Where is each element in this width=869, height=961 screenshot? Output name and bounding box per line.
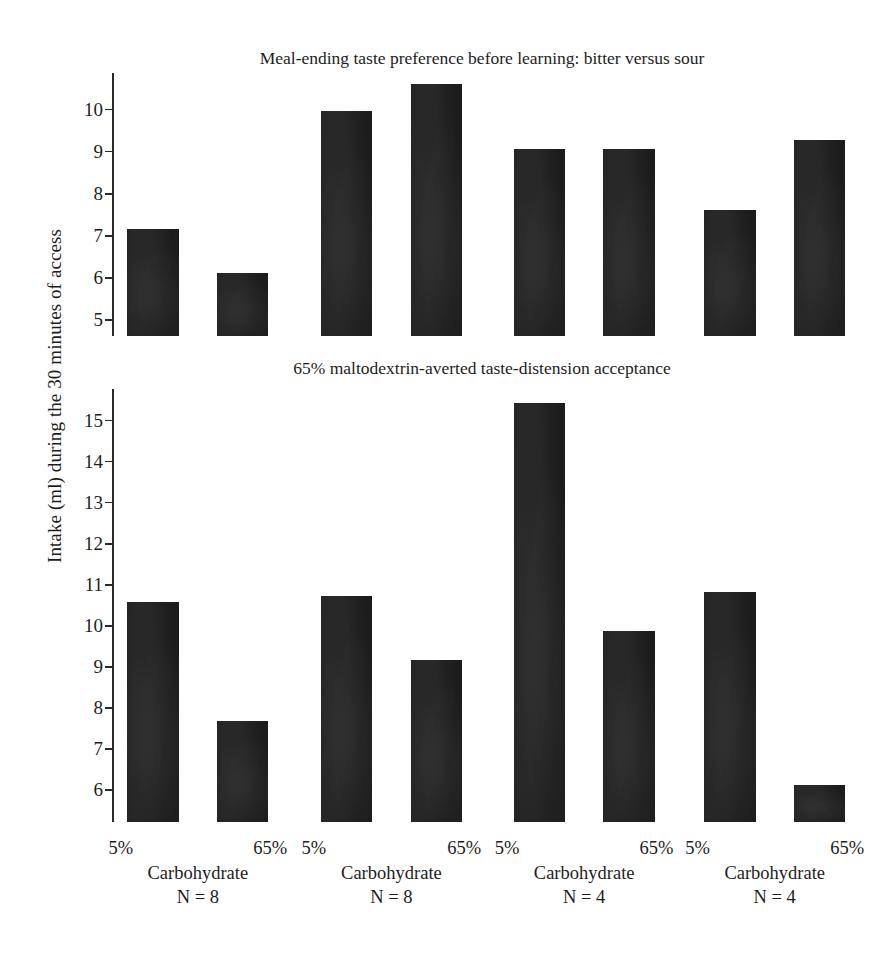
x-axis-category-label: Carbohydrate xyxy=(488,861,681,886)
x-axis-level-row: 5%65% xyxy=(295,836,489,861)
x-axis-group: 5%65%CarbohydrateN = 4 xyxy=(488,836,681,910)
y-axis-label: Intake (ml) during the 30 minutes of acc… xyxy=(44,136,66,656)
y-axis-line xyxy=(112,389,114,822)
y-axis-tick-label: 11 xyxy=(85,574,103,593)
y-axis-tick-label: 8 xyxy=(94,183,104,202)
y-axis-tick xyxy=(105,277,112,279)
y-axis-tick-label: 10 xyxy=(84,615,103,634)
y-axis-tick-label: 6 xyxy=(94,268,104,287)
y-axis-tick xyxy=(105,193,112,195)
bar xyxy=(603,149,655,336)
y-axis-tick-label: 13 xyxy=(84,492,103,511)
x-axis-sample-size: N = 8 xyxy=(101,885,294,910)
x-axis-category-label: Carbohydrate xyxy=(678,861,869,886)
y-axis-tick xyxy=(105,420,112,422)
x-axis-group-labels: 5%65%CarbohydrateN = 85%65%CarbohydrateN… xyxy=(112,836,852,936)
x-axis-category-label: Carbohydrate xyxy=(101,861,294,886)
x-axis-level-high: 65% xyxy=(253,836,287,861)
x-axis-level-high: 65% xyxy=(830,836,864,861)
x-axis-group: 5%65%CarbohydrateN = 8 xyxy=(101,836,294,910)
bar xyxy=(127,229,179,336)
bar xyxy=(217,721,269,822)
y-axis-tick xyxy=(105,319,112,321)
y-axis-tick-label: 5 xyxy=(94,310,104,329)
x-axis-level-row: 5%65% xyxy=(678,836,869,861)
x-axis-group: 5%65%CarbohydrateN = 8 xyxy=(295,836,489,910)
y-axis-tick-label: 8 xyxy=(94,698,104,717)
x-axis-sample-size: N = 4 xyxy=(488,885,681,910)
y-axis-tick xyxy=(105,666,112,668)
chart-title-bottom: 65% maltodextrin-averted taste-distensio… xyxy=(112,358,852,379)
x-axis-level-row: 5%65% xyxy=(101,836,294,861)
y-axis-tick xyxy=(105,151,112,153)
bar xyxy=(321,596,373,822)
bar xyxy=(704,592,756,822)
bar xyxy=(411,660,463,822)
y-axis-tick xyxy=(105,625,112,627)
plot-area-top: 5678910 xyxy=(112,73,852,336)
chart-title-top: Meal-ending taste preference before lear… xyxy=(112,48,852,69)
y-axis-tick-label: 10 xyxy=(84,99,103,118)
chart-panel-top: Meal-ending taste preference before lear… xyxy=(112,48,852,338)
y-axis-tick-label: 14 xyxy=(84,451,103,470)
bar xyxy=(127,602,179,822)
y-axis-tick xyxy=(105,543,112,545)
bar xyxy=(321,111,373,336)
y-axis-line xyxy=(112,73,114,336)
y-axis-tick-label: 7 xyxy=(94,739,104,758)
y-axis-tick-label: 15 xyxy=(84,410,103,429)
y-axis-tick-label: 12 xyxy=(84,533,103,552)
bar xyxy=(704,210,756,336)
x-axis-level-low: 5% xyxy=(495,836,520,861)
x-axis-level-low: 5% xyxy=(108,836,133,861)
x-axis-sample-size: N = 8 xyxy=(295,885,489,910)
x-axis-level-high: 65% xyxy=(640,836,674,861)
x-axis-sample-size: N = 4 xyxy=(678,885,869,910)
x-axis-level-high: 65% xyxy=(447,836,481,861)
y-axis-tick-label: 7 xyxy=(94,226,104,245)
y-axis-tick xyxy=(105,584,112,586)
y-axis-tick-label: 9 xyxy=(94,657,104,676)
bar xyxy=(217,273,269,336)
y-axis-tick-label: 9 xyxy=(94,141,104,160)
bar xyxy=(794,785,846,822)
bar xyxy=(514,403,566,822)
bar xyxy=(603,631,655,822)
y-axis-tick xyxy=(105,748,112,750)
x-axis-level-row: 5%65% xyxy=(488,836,681,861)
x-axis-level-low: 5% xyxy=(302,836,327,861)
y-axis-tick xyxy=(105,109,112,111)
bar xyxy=(411,84,463,336)
y-axis-tick-label: 6 xyxy=(94,780,104,799)
y-axis-tick xyxy=(105,707,112,709)
x-axis-group: 5%65%CarbohydrateN = 4 xyxy=(678,836,869,910)
x-axis-level-low: 5% xyxy=(685,836,710,861)
x-axis-category-label: Carbohydrate xyxy=(295,861,489,886)
y-axis-tick xyxy=(105,235,112,237)
y-axis-tick xyxy=(105,789,112,791)
y-axis-tick xyxy=(105,461,112,463)
bar xyxy=(794,140,846,336)
y-axis-tick xyxy=(105,502,112,504)
plot-area-bottom: 6789101112131415 xyxy=(112,389,852,822)
bar xyxy=(514,149,566,336)
chart-panel-bottom: 65% maltodextrin-averted taste-distensio… xyxy=(112,358,852,828)
